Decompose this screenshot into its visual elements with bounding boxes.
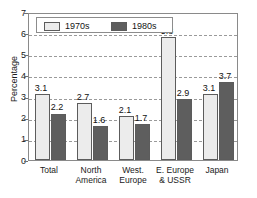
x-axis-category-label-line: Japan xyxy=(187,165,247,175)
y-axis-tick-label: 5 xyxy=(6,51,26,60)
bar-1980s xyxy=(219,82,234,160)
bar-1980s xyxy=(177,99,192,160)
legend-item-1970s: 1970s xyxy=(44,20,90,32)
y-axis-tick-mark xyxy=(24,161,28,162)
bar-1970s xyxy=(161,37,176,160)
bar-value-label: 2.7 xyxy=(71,93,96,102)
bar-1980s xyxy=(51,114,66,161)
y-axis-tick-label: 6 xyxy=(6,30,26,39)
bar-chart: Percentage 01234567 3.12.22.71.62.11.75.… xyxy=(0,0,257,198)
bar-1980s xyxy=(93,126,108,160)
bar-value-label: 3.1 xyxy=(197,84,222,93)
legend-item-1980s: 1980s xyxy=(111,20,157,32)
x-axis-category-label-line: & USSR xyxy=(145,175,205,185)
y-axis-tick-label: 7 xyxy=(6,9,26,18)
legend: 1970s 1980s xyxy=(36,17,173,33)
y-axis-tick-label: 1 xyxy=(6,135,26,144)
y-axis-tick-label: 4 xyxy=(6,72,26,81)
y-axis-tick-label: 3 xyxy=(6,93,26,102)
bar-1970s xyxy=(77,103,92,160)
legend-swatch-1970s xyxy=(44,22,60,31)
bar-value-label: 1.7 xyxy=(129,114,154,123)
bar-value-label: 1.6 xyxy=(87,116,112,125)
legend-label-1970s: 1970s xyxy=(65,22,90,31)
bar-1970s xyxy=(203,94,218,160)
bar-1980s xyxy=(135,124,150,160)
x-axis-category-label: Japan xyxy=(187,165,247,175)
legend-label-1980s: 1980s xyxy=(132,22,157,31)
y-axis-tick-label: 2 xyxy=(6,114,26,123)
bar-value-label: 2.2 xyxy=(45,103,70,112)
bar-value-label: 2.9 xyxy=(171,89,196,98)
bar-value-label: 3.7 xyxy=(213,72,238,81)
legend-swatch-1980s xyxy=(111,22,127,31)
bar-value-label: 3.1 xyxy=(29,84,54,93)
